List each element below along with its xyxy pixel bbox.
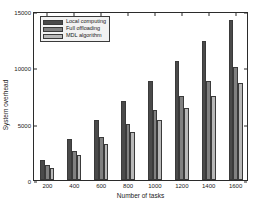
bar xyxy=(238,83,243,180)
x-tick-mark-top xyxy=(181,13,182,16)
bar xyxy=(104,144,109,180)
y-tick-mark xyxy=(34,182,37,183)
x-tick-mark-top xyxy=(235,13,236,16)
bar xyxy=(130,132,135,180)
legend-label: MDL algorithm xyxy=(66,33,102,39)
x-tick-label: 400 xyxy=(69,183,79,189)
legend-label: Full offloading xyxy=(66,26,100,32)
legend-swatch xyxy=(43,20,63,25)
plot-area: 050001000015000 200400600800100012001400… xyxy=(33,12,248,181)
bar xyxy=(211,96,216,181)
y-tick-label: 5000 xyxy=(18,123,31,129)
bar xyxy=(77,155,82,180)
bar xyxy=(184,108,189,180)
legend-item: Local computing xyxy=(43,19,106,25)
x-tick-label: 600 xyxy=(96,183,106,189)
y-tick-mark xyxy=(34,69,37,70)
x-tick-label: 800 xyxy=(123,183,133,189)
x-tick-label: 1000 xyxy=(148,183,161,189)
bar xyxy=(157,120,162,180)
legend-swatch xyxy=(43,34,63,39)
y-tick-label: 0 xyxy=(28,179,31,185)
legend-item: MDL algorithm xyxy=(43,33,106,39)
figure: System overhead 050001000015000 20040060… xyxy=(0,0,256,209)
y-tick-mark-right xyxy=(244,125,247,126)
bar xyxy=(50,168,55,180)
chart-legend: Local computingFull offloadingMDL algori… xyxy=(40,16,110,42)
legend-swatch xyxy=(43,27,63,32)
x-tick-mark-top xyxy=(154,13,155,16)
y-axis-label: System overhead xyxy=(2,79,9,130)
x-tick-label: 1200 xyxy=(175,183,188,189)
y-tick-label: 15000 xyxy=(14,10,31,16)
y-tick-mark xyxy=(34,125,37,126)
x-tick-label: 200 xyxy=(42,183,52,189)
x-tick-mark-top xyxy=(208,13,209,16)
y-tick-label: 10000 xyxy=(14,66,31,72)
x-tick-label: 1400 xyxy=(202,183,215,189)
x-tick-mark-top xyxy=(128,13,129,16)
y-tick-mark-right xyxy=(244,69,247,70)
x-axis-label: Number of tasks xyxy=(33,192,248,199)
y-tick-mark-right xyxy=(244,182,247,183)
y-tick-mark xyxy=(34,13,37,14)
legend-label: Local computing xyxy=(66,19,106,25)
y-tick-mark-right xyxy=(244,13,247,14)
legend-item: Full offloading xyxy=(43,26,106,32)
x-tick-label: 1600 xyxy=(229,183,242,189)
